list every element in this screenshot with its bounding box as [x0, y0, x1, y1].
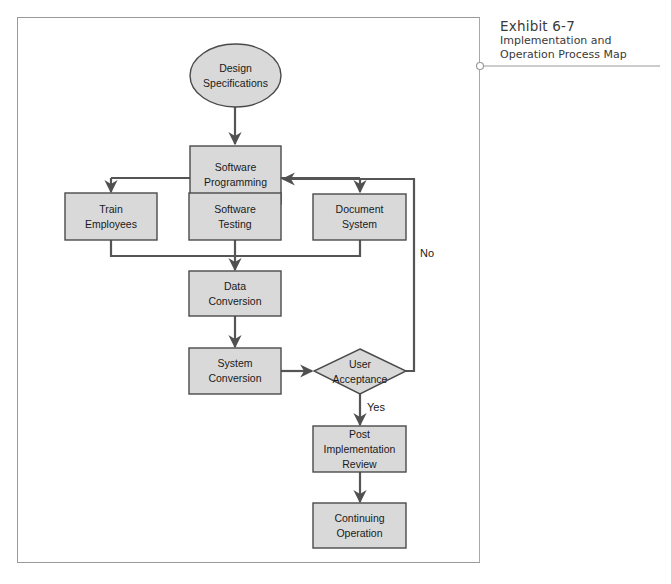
node-user-acceptance: [314, 349, 406, 394]
node-software-testing: [189, 193, 281, 240]
edge-label-no: No: [420, 247, 434, 259]
node-document-system: [313, 194, 406, 240]
exhibit-title-line1: Implementation and: [500, 34, 627, 48]
node-design-specifications: [190, 44, 281, 107]
exhibit-caption: Exhibit 6-7 Implementation and Operation…: [500, 18, 627, 62]
flowchart: [0, 0, 671, 584]
exhibit-number: Exhibit 6-7: [500, 18, 627, 34]
node-data-conversion: [189, 271, 281, 316]
edge-label-yes: Yes: [367, 401, 385, 413]
exhibit-title-line2: Operation Process Map: [500, 48, 627, 62]
caption-marker-icon: [477, 63, 484, 70]
node-train-employees: [65, 193, 157, 240]
node-post-implementation-review: [313, 426, 406, 472]
node-system-conversion: [189, 348, 281, 394]
node-continuing-operation: [313, 503, 406, 548]
